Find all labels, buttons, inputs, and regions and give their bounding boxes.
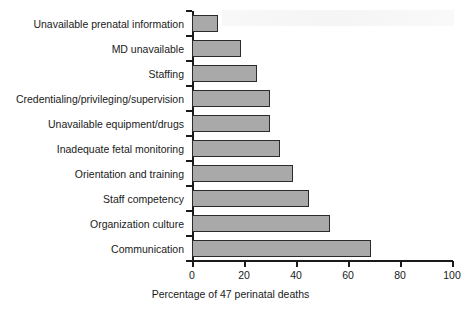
x-axis-tick-label: 0 <box>189 269 195 281</box>
x-axis-tick-label: 100 <box>443 269 461 281</box>
category-label: Organization culture <box>90 211 184 236</box>
category-label: Staff competency <box>103 186 184 211</box>
x-axis-tick <box>296 261 298 267</box>
x-axis-tick-label: 20 <box>238 269 250 281</box>
bar <box>192 40 241 57</box>
bar <box>192 215 330 232</box>
category-label: Credentialing/privileging/supervision <box>16 86 184 111</box>
category-label: Orientation and training <box>75 161 184 186</box>
x-axis-tick-label: 80 <box>394 269 406 281</box>
bar-chart: Unavailable prenatal informationMD unava… <box>0 0 461 311</box>
bar <box>192 190 309 207</box>
bar-row <box>192 86 452 111</box>
bar-row <box>192 186 452 211</box>
category-label: Unavailable prenatal information <box>33 11 184 36</box>
bar <box>192 140 280 157</box>
x-axis-tick <box>348 261 350 267</box>
x-axis-tick-label: 60 <box>342 269 354 281</box>
x-axis-tick <box>192 261 194 267</box>
plot-area <box>192 11 452 261</box>
category-label: Unavailable equipment/drugs <box>48 111 184 136</box>
category-label: Communication <box>111 236 184 261</box>
bar-row <box>192 136 452 161</box>
x-axis-tick-label: 40 <box>290 269 302 281</box>
category-label: Inadequate fetal monitoring <box>57 136 184 161</box>
bar <box>192 240 371 257</box>
x-axis-tick <box>400 261 402 267</box>
category-labels: Unavailable prenatal informationMD unava… <box>0 11 188 261</box>
x-axis-title: Percentage of 47 perinatal deaths <box>0 288 461 300</box>
x-axis-tick <box>244 261 246 267</box>
bar <box>192 115 270 132</box>
bar <box>192 65 257 82</box>
x-axis-tick <box>452 261 454 267</box>
bar-row <box>192 211 452 236</box>
bar-row <box>192 161 452 186</box>
bar-row <box>192 61 452 86</box>
bar-row <box>192 36 452 61</box>
bar <box>192 90 270 107</box>
bar-row <box>192 111 452 136</box>
bar <box>192 165 293 182</box>
category-label: MD unavailable <box>112 36 184 61</box>
bar-row <box>192 236 452 261</box>
bar-row <box>192 11 452 36</box>
bar <box>192 15 218 32</box>
category-label: Staffing <box>149 61 184 86</box>
